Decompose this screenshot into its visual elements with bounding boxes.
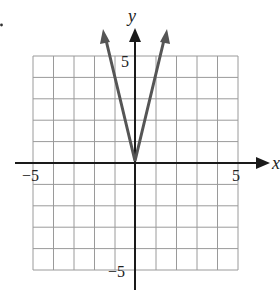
stray-dot — [0, 24, 3, 27]
x-axis-arrow-icon — [256, 157, 270, 169]
x-tick-min: −5 — [22, 167, 39, 184]
coordinate-plane: x y −5 5 5 −5 — [0, 0, 280, 299]
y-tick-max: 5 — [121, 53, 129, 70]
y-tick-min: −5 — [108, 263, 125, 280]
x-axis-label: x — [271, 153, 280, 173]
y-axis-label: y — [126, 6, 136, 26]
right-branch-arrow-icon — [160, 29, 170, 44]
left-branch-arrow-icon — [100, 29, 110, 44]
y-axis-arrow-icon — [129, 28, 141, 42]
x-tick-max: 5 — [232, 167, 240, 184]
